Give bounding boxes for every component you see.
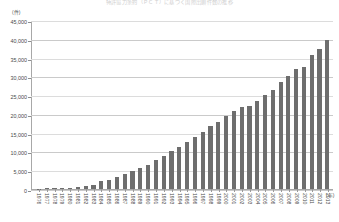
bar[interactable] (193, 137, 197, 189)
x-axis-slot: 1989 (137, 192, 145, 222)
x-axis-tick-label: 1987 (122, 193, 127, 204)
bar[interactable] (317, 49, 321, 189)
bar[interactable] (232, 111, 236, 189)
x-axis-tick (180, 189, 181, 192)
bar[interactable] (240, 107, 244, 189)
bar-slot (207, 21, 215, 189)
bar[interactable] (216, 122, 220, 189)
x-axis-tick-label: 1988 (129, 193, 134, 204)
bar[interactable] (279, 82, 283, 189)
bar-slot (238, 21, 246, 189)
x-axis-slot: 2007 (277, 192, 285, 222)
gridline: 0 (31, 190, 333, 191)
y-axis-tick-label: 20,000 (11, 113, 28, 119)
bar[interactable] (263, 95, 267, 189)
bar-series (32, 21, 333, 189)
x-axis-slot: 2011 (308, 192, 316, 222)
x-axis-tick-label: 2006 (270, 193, 275, 204)
x-axis-tick-label: 2003 (247, 193, 252, 204)
x-axis-tick-label: 1982 (83, 193, 88, 204)
y-axis-tick (28, 78, 31, 79)
bar[interactable] (271, 90, 275, 189)
bar[interactable] (123, 174, 127, 189)
bar-slot (66, 21, 74, 189)
bar[interactable] (286, 76, 290, 189)
x-axis-tick-label: 1981 (75, 193, 80, 204)
bar[interactable] (325, 40, 329, 189)
y-axis-tick (28, 153, 31, 154)
x-axis-tick (211, 189, 212, 192)
y-axis-tick (28, 135, 31, 136)
bar[interactable] (294, 69, 298, 189)
x-axis-tick (47, 189, 48, 192)
bar[interactable] (208, 126, 212, 189)
x-axis-slot: 2004 (254, 192, 262, 222)
bar[interactable] (99, 181, 103, 189)
y-axis-tick (28, 97, 31, 98)
x-axis-tick (203, 189, 204, 192)
bar-slot (82, 21, 90, 189)
x-axis-slot: 1991 (152, 192, 160, 222)
bar-slot (214, 21, 222, 189)
chart-title: 特許協力条約（ＰＣＴ）に基づく国際出願件数の推移 (0, 0, 339, 6)
x-axis-tick (133, 189, 134, 192)
x-axis-tick (187, 189, 188, 192)
x-axis-labels: 1976197719781979198019811982198319841985… (32, 192, 334, 222)
bar[interactable] (154, 160, 158, 189)
x-axis-slot: 1992 (160, 192, 168, 222)
x-axis-slot: 1988 (129, 192, 137, 222)
x-axis-tick (117, 189, 118, 192)
bar[interactable] (201, 132, 205, 189)
bar[interactable] (255, 101, 259, 189)
bar[interactable] (162, 156, 166, 189)
bar-slot (323, 21, 331, 189)
x-axis-slot: 1983 (90, 192, 98, 222)
bar-slot (105, 21, 113, 189)
x-axis-tick-label: 2007 (278, 193, 283, 204)
x-axis-slot: 1990 (144, 192, 152, 222)
x-axis-tick-label: 2002 (239, 193, 244, 204)
bar[interactable] (247, 106, 251, 189)
bar[interactable] (130, 171, 134, 189)
bar-slot (74, 21, 82, 189)
bar-slot (144, 21, 152, 189)
bar[interactable] (169, 151, 173, 189)
x-axis-slot: 1993 (168, 192, 176, 222)
x-axis-slot: 1976 (35, 192, 43, 222)
x-axis-slot: 2001 (230, 192, 238, 222)
x-axis-slot: 2003 (246, 192, 254, 222)
bar-slot (292, 21, 300, 189)
x-axis-tick (250, 189, 251, 192)
bar[interactable] (302, 67, 306, 189)
y-axis-tick-label: 35,000 (11, 57, 28, 63)
x-axis-unit-label: (年) (326, 192, 334, 198)
bar-slot (316, 21, 324, 189)
x-axis-tick-label: 2000 (223, 193, 228, 204)
x-axis-tick-label: 1996 (192, 193, 197, 204)
bar-slot (97, 21, 105, 189)
bar[interactable] (177, 147, 181, 189)
x-axis-tick (125, 189, 126, 192)
x-axis-tick (140, 189, 141, 192)
x-axis-tick (148, 189, 149, 192)
x-axis-slot: 2008 (285, 192, 293, 222)
x-axis-tick-label: 2012 (317, 193, 322, 204)
x-axis-tick-label: 2005 (262, 193, 267, 204)
x-axis-slot: 2000 (223, 192, 231, 222)
bar[interactable] (146, 165, 150, 189)
x-axis-slot: 1984 (98, 192, 106, 222)
bar[interactable] (185, 142, 189, 189)
y-axis-tick-label: 45,000 (11, 19, 28, 25)
x-axis-tick (62, 189, 63, 192)
bar[interactable] (107, 180, 111, 189)
bar[interactable] (224, 116, 228, 189)
bar-slot (222, 21, 230, 189)
bar-slot (160, 21, 168, 189)
bar[interactable] (138, 168, 142, 189)
bar-slot (300, 21, 308, 189)
bar[interactable] (115, 177, 119, 189)
x-axis-tick-label: 1993 (169, 193, 174, 204)
x-axis-tick-label: 1980 (67, 193, 72, 204)
bar[interactable] (310, 55, 314, 189)
x-axis-tick (242, 189, 243, 192)
